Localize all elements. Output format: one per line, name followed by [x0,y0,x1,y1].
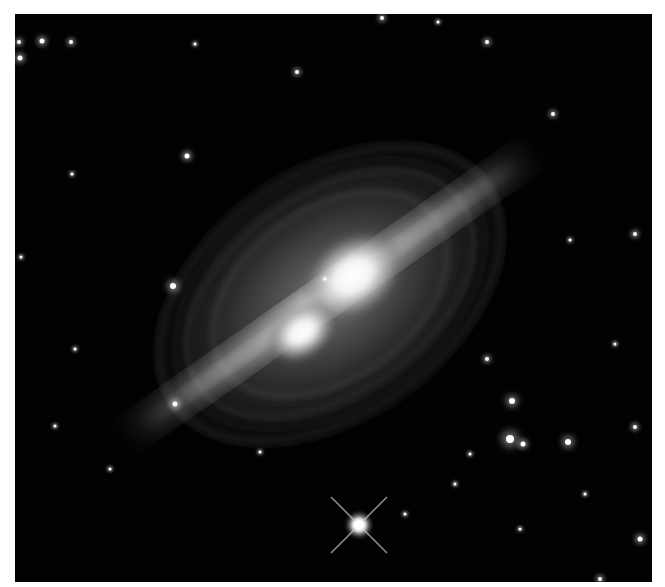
star [614,343,617,346]
star [54,425,57,428]
star [521,442,526,447]
bright-star [319,485,399,565]
star [551,112,555,116]
star [519,528,522,531]
star [259,451,262,454]
star [69,40,73,44]
star [324,278,327,281]
star [638,537,643,542]
star [185,154,190,159]
star [404,513,407,516]
star [40,39,45,44]
star [485,357,489,361]
star [437,21,440,24]
star [71,173,74,176]
star [380,16,384,20]
star [74,348,77,351]
star [633,425,637,429]
star [633,232,637,236]
star [194,43,197,46]
star [485,40,489,44]
star [584,493,587,496]
star [173,402,178,407]
star [509,398,515,404]
star [565,439,571,445]
star [569,239,572,242]
nebula-photo [15,14,652,582]
star [17,40,21,44]
star [109,468,112,471]
star [295,70,299,74]
star [454,483,457,486]
star [170,283,176,289]
star [469,453,472,456]
star [598,577,602,581]
star [20,256,23,259]
star [18,56,23,61]
star [506,435,514,443]
